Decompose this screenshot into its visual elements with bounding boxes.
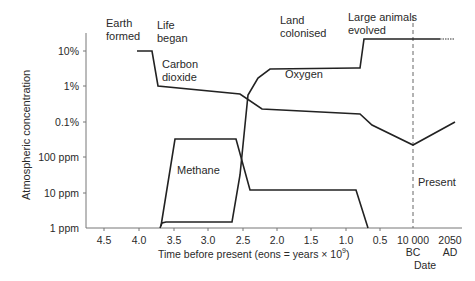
series-label-line: Carbon (162, 58, 198, 71)
annotation-line: Land (280, 14, 326, 27)
series-methane-line (161, 139, 368, 228)
series-label-line: dioxide (162, 71, 198, 84)
annotation-line: Large animals (348, 11, 417, 24)
date-tick-era: BC (391, 246, 435, 258)
x-tick-label-date: 2050 AD (430, 234, 470, 258)
x-axis-label-close: ) (346, 248, 350, 260)
annotation-land-colonised: Land colonised (280, 14, 326, 40)
annotation-life-began: Life began (157, 19, 188, 45)
present-label: Present (418, 176, 456, 189)
series-label-methane: Methane (177, 164, 220, 177)
annotation-earth-formed: Earth formed (106, 17, 140, 43)
y-tick-label: 1 ppm (19, 222, 79, 234)
annotation-large-animals-evolved: Large animals evolved (348, 11, 417, 37)
series-label-oxygen: Oxygen (285, 68, 323, 81)
date-tick-era: AD (430, 246, 470, 258)
annotation-line: Life (157, 19, 188, 32)
date-axis-label: Date (414, 259, 436, 272)
annotation-line: formed (106, 30, 140, 43)
y-axis-label: Atmospheric concentration (20, 70, 32, 200)
date-tick-value: 2050 (430, 234, 470, 246)
x-axis-label: Time before present (eons = years × 109) (158, 244, 349, 261)
annotation-line: began (157, 32, 188, 45)
x-tick-label-date: 10 000 BC (391, 234, 435, 258)
annotation-line: evolved (348, 24, 417, 37)
x-tick-label: 4.5 (84, 234, 124, 246)
annotation-line: Earth (106, 17, 140, 30)
date-tick-value: 10 000 (391, 234, 435, 246)
y-tick-label: 10% (19, 45, 79, 57)
series-label-carbon-dioxide: Carbon dioxide (162, 58, 198, 84)
x-axis-label-text: Time before present (eons = years × 10 (158, 248, 342, 260)
annotation-line: colonised (280, 27, 326, 40)
x-tick-label: 4.0 (119, 234, 159, 246)
